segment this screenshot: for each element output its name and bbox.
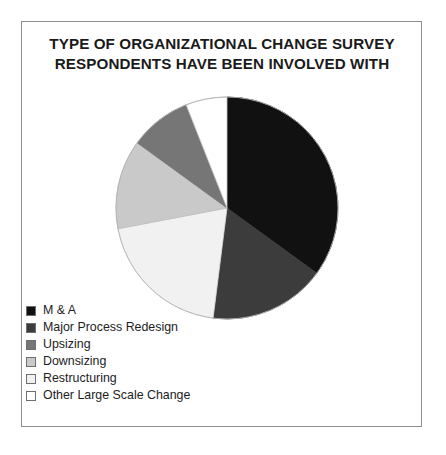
legend-swatch-icon: [26, 323, 36, 333]
legend-item: M & A: [26, 302, 286, 319]
pie-chart-area: [115, 96, 339, 320]
legend-item-label: Downsizing: [43, 355, 106, 367]
legend-item-label: Major Process Redesign: [43, 321, 178, 333]
legend-item-label: M & A: [43, 304, 76, 316]
page-title: TYPE OF ORGANIZATIONAL CHANGE SURVEY RES…: [33, 34, 411, 74]
pie-chart-svg: [115, 96, 339, 320]
legend-item: Restructuring: [26, 370, 286, 387]
legend-item: Other Large Scale Change: [26, 387, 286, 404]
chart-legend: M & AMajor Process RedesignUpsizingDowns…: [26, 302, 286, 404]
legend-item-label: Upsizing: [43, 338, 91, 350]
legend-swatch-icon: [26, 306, 36, 316]
legend-swatch-icon: [26, 391, 36, 401]
legend-swatch-icon: [26, 357, 36, 367]
pie-chart-figure: TYPE OF ORGANIZATIONAL CHANGE SURVEY RES…: [0, 0, 446, 455]
legend-swatch-icon: [26, 374, 36, 384]
legend-item-label: Restructuring: [43, 372, 117, 384]
legend-item: Major Process Redesign: [26, 319, 286, 336]
legend-item: Upsizing: [26, 336, 286, 353]
legend-item-label: Other Large Scale Change: [43, 389, 190, 401]
legend-swatch-icon: [26, 340, 36, 350]
pie-slice-group: [116, 97, 338, 319]
legend-item: Downsizing: [26, 353, 286, 370]
